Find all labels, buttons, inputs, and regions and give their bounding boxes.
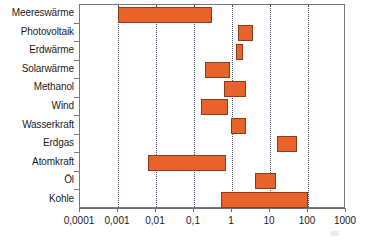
bar-kohle: [221, 192, 308, 208]
horizontal-log-bar-chart: MeereswärmePhotovoltaikErdwärmeSolarwärm…: [0, 0, 366, 240]
bar--l: [255, 173, 276, 189]
x-tick-label-1000: 1000: [334, 215, 356, 226]
category-tick-3: [74, 60, 79, 61]
x-tick-0,01: [155, 208, 156, 212]
category-label-9: Öl: [0, 175, 74, 185]
category-axis-labels: MeereswärmePhotovoltaikErdwärmeSolarwärm…: [0, 4, 74, 208]
gridline-1: [232, 5, 233, 207]
category-label-5: Wind: [0, 101, 74, 111]
category-tick-7: [74, 134, 79, 135]
bar-erdgas: [277, 136, 297, 152]
gridline-0,1: [194, 5, 195, 207]
bar-methanol: [224, 81, 247, 97]
category-label-4: Methanol: [0, 82, 74, 92]
category-tick-2: [74, 41, 79, 42]
x-axis-line: [79, 208, 345, 209]
category-tick-9: [74, 171, 79, 172]
x-tick-10: [269, 208, 270, 212]
category-label-0: Meereswärme: [0, 8, 74, 18]
bar-wind: [201, 99, 229, 115]
bar-erdw-rme: [236, 44, 243, 60]
category-tick-5: [74, 97, 79, 98]
category-label-7: Erdgas: [0, 138, 74, 148]
x-tick-label-0,001: 0,001: [104, 215, 129, 226]
category-tick-1: [74, 23, 79, 24]
x-tick-1000: [345, 208, 346, 212]
x-tick-0,1: [193, 208, 194, 212]
category-label-10: Kohle: [0, 194, 74, 204]
x-tick-label-10: 10: [263, 215, 274, 226]
gridline-100: [308, 5, 309, 207]
category-label-3: Solarwärme: [0, 64, 74, 74]
bar-solarw-rme: [205, 62, 230, 78]
bar-atomkraft: [148, 155, 227, 171]
x-tick-0,0001: [79, 208, 80, 212]
category-tick-6: [74, 115, 79, 116]
category-tick-10: [74, 189, 79, 190]
bar-wasserkraft: [231, 118, 246, 134]
x-tick-label-100: 100: [299, 215, 316, 226]
x-tick-100: [307, 208, 308, 212]
category-label-6: Wasserkraft: [0, 120, 74, 130]
category-tick-4: [74, 78, 79, 79]
gridline-0,001: [118, 5, 119, 207]
x-tick-label-0,1: 0,1: [186, 215, 200, 226]
category-label-2: Erdwärme: [0, 45, 74, 55]
bar-photovoltaik: [238, 25, 253, 41]
x-tick-label-1: 1: [228, 215, 234, 226]
gridline-0,01: [156, 5, 157, 207]
scan-artifact: [330, 231, 339, 236]
x-tick-0,001: [117, 208, 118, 212]
x-tick-1: [231, 208, 232, 212]
bar-meeresw-rme: [118, 7, 212, 23]
x-tick-label-0,01: 0,01: [145, 215, 164, 226]
category-label-1: Photovoltaik: [0, 27, 74, 37]
category-tick-8: [74, 152, 79, 153]
category-label-8: Atomkraft: [0, 157, 74, 167]
x-tick-label-0,0001: 0,0001: [64, 215, 95, 226]
plot-area: [79, 4, 345, 208]
